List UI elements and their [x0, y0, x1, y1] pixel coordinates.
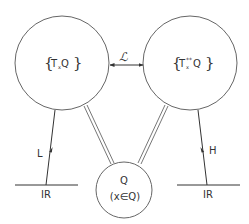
hamiltonian-label: H — [209, 145, 217, 156]
cotangent-space-superscript: ** — [186, 56, 192, 63]
cotangent-space-T: T — [178, 58, 186, 69]
node-cotangent-space: { T x ** Q } — [143, 16, 237, 110]
real-line-right-label: IR — [203, 189, 213, 200]
hamiltonian-map: H — [198, 110, 217, 185]
brace-close: } — [73, 54, 83, 72]
cotangent-space-Q: Q — [193, 58, 201, 69]
configuration-Q: Q — [120, 175, 128, 186]
legendre-label: ℒ — [119, 50, 128, 64]
node-configuration-space: Q (x∈Q) — [96, 162, 152, 218]
projection-right — [138, 105, 168, 164]
tangent-space-T: T — [50, 58, 58, 69]
cotangent-space-subscript: x — [186, 64, 189, 70]
node-tangent-space: { T x Q } — [15, 16, 109, 110]
configuration-point: (x∈Q) — [110, 191, 140, 202]
real-line-left-label: IR — [41, 189, 51, 200]
lagrangian-label: L — [37, 148, 43, 159]
tangent-space-Q: Q — [61, 58, 69, 69]
legendre-arrow: ℒ — [110, 50, 143, 65]
brace-close: } — [205, 54, 215, 72]
projection-left — [84, 105, 114, 164]
diagram-canvas: { T x Q } { T x ** Q } ℒ Q (x∈Q) — [0, 0, 249, 224]
lagrangian-map: L — [37, 110, 55, 185]
